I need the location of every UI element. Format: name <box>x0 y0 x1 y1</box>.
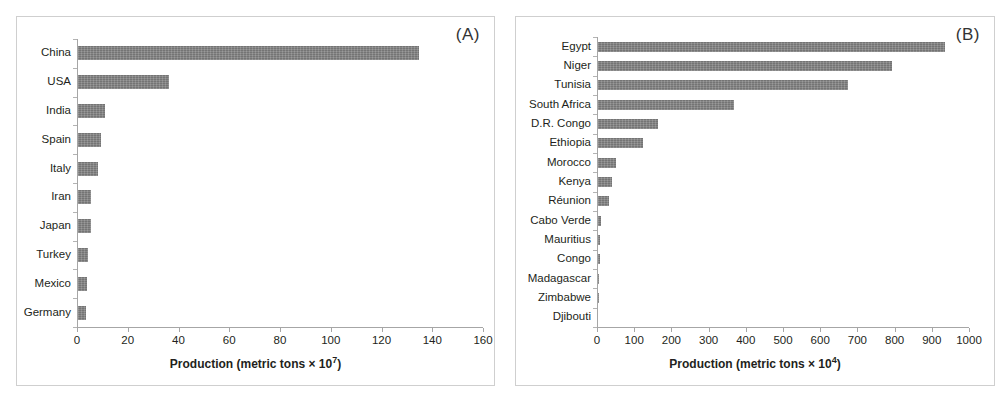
bar <box>78 133 101 147</box>
y-axis-tick <box>593 250 597 251</box>
bar <box>78 306 86 320</box>
bar <box>78 219 91 233</box>
x-axis-tick-label: 1000 <box>956 335 982 347</box>
y-axis-tick <box>593 153 597 154</box>
category-label: Germany <box>17 307 71 319</box>
x-axis-tick <box>820 328 821 332</box>
x-axis-tick <box>280 328 281 332</box>
y-axis-tick <box>73 212 77 213</box>
y-axis-tick <box>593 172 597 173</box>
category-label: Madagascar <box>516 273 591 285</box>
bar <box>78 248 88 262</box>
bar <box>598 138 643 148</box>
x-axis-tick <box>128 328 129 332</box>
x-axis-tick-label: 500 <box>773 335 792 347</box>
y-axis-tick <box>73 269 77 270</box>
bar <box>598 61 892 71</box>
panel-a-axis-title: Production (metric tons × 107) <box>17 357 494 371</box>
y-axis-tick <box>73 39 77 40</box>
y-axis-tick <box>73 97 77 98</box>
category-label: South Africa <box>516 99 591 111</box>
category-label: Djibouti <box>516 312 591 324</box>
x-axis-tick-label: 900 <box>922 335 941 347</box>
y-axis-tick <box>593 76 597 77</box>
x-axis-tick-label: 0 <box>594 335 600 347</box>
category-label: India <box>17 105 71 117</box>
x-axis-tick <box>783 328 784 332</box>
x-axis-tick-label: 160 <box>473 335 492 347</box>
y-axis-tick <box>593 211 597 212</box>
bar <box>598 235 600 245</box>
panel-a-axis-title-text: Production (metric tons × 10 <box>170 357 332 371</box>
category-label: Mauritius <box>516 234 591 246</box>
x-axis-tick <box>857 328 858 332</box>
category-label: Spain <box>17 134 71 146</box>
y-axis-tick <box>593 230 597 231</box>
x-axis-tick <box>382 328 383 332</box>
y-axis-tick <box>593 134 597 135</box>
category-label: Congo <box>516 254 591 266</box>
x-axis-tick-label: 200 <box>662 335 681 347</box>
category-label: Morocco <box>516 157 591 169</box>
bar <box>598 293 599 303</box>
x-axis-tick-label: 120 <box>372 335 391 347</box>
x-axis-tick-label: 80 <box>274 335 287 347</box>
bar <box>78 46 419 60</box>
x-axis-tick <box>432 328 433 332</box>
bar <box>598 42 945 52</box>
y-axis-tick <box>593 308 597 309</box>
y-axis-tick <box>73 68 77 69</box>
panel-a-axis-title-suffix: ) <box>337 357 341 371</box>
x-axis-tick <box>746 328 747 332</box>
category-label: D.R. Congo <box>516 118 591 130</box>
bar <box>598 196 609 206</box>
category-label: Tunisia <box>516 80 591 92</box>
panel-a-plot-area: ChinaUSAIndiaSpainItalyIranJapanTurkeyMe… <box>17 17 494 385</box>
x-axis-tick <box>229 328 230 332</box>
y-axis-tick <box>73 125 77 126</box>
x-axis-tick <box>709 328 710 332</box>
x-axis-tick <box>483 328 484 332</box>
x-axis-tick-label: 20 <box>121 335 134 347</box>
x-axis-tick <box>77 328 78 332</box>
bar <box>598 274 599 284</box>
y-axis-tick <box>73 183 77 184</box>
category-label: USA <box>17 76 71 88</box>
y-axis-tick <box>593 269 597 270</box>
y-axis-tick <box>73 241 77 242</box>
panel-b-axis-title-suffix: ) <box>837 357 841 371</box>
x-axis-tick-label: 40 <box>172 335 185 347</box>
category-label: China <box>17 48 71 60</box>
x-axis-tick <box>895 328 896 332</box>
bar <box>598 100 734 110</box>
category-label: Kenya <box>516 176 591 188</box>
figure-two-panel-bar-charts: (A) ChinaUSAIndiaSpainItalyIranJapanTurk… <box>0 0 1003 405</box>
bar <box>598 177 612 187</box>
panel-b-axis-title: Production (metric tons × 104) <box>516 357 994 371</box>
y-axis-tick <box>593 95 597 96</box>
bar <box>598 119 658 129</box>
panel-a: (A) ChinaUSAIndiaSpainItalyIranJapanTurk… <box>16 16 495 386</box>
y-axis-tick <box>593 37 597 38</box>
category-label: Cabo Verde <box>516 215 591 227</box>
bar <box>78 277 87 291</box>
x-axis-tick-label: 100 <box>625 335 644 347</box>
category-label: Ethiopia <box>516 138 591 150</box>
x-axis-tick-label: 700 <box>848 335 867 347</box>
category-label: Egypt <box>516 41 591 53</box>
x-axis-tick-label: 140 <box>423 335 442 347</box>
x-axis-tick-label: 400 <box>736 335 755 347</box>
category-label: Niger <box>516 60 591 72</box>
bar <box>598 216 601 226</box>
bar <box>78 104 105 118</box>
bar <box>78 162 98 176</box>
category-label: Turkey <box>17 249 71 261</box>
category-label: Zimbabwe <box>516 292 591 304</box>
x-axis-tick-label: 300 <box>699 335 718 347</box>
bar <box>598 158 616 168</box>
category-label: Italy <box>17 163 71 175</box>
x-axis-tick <box>331 328 332 332</box>
x-axis-tick <box>671 328 672 332</box>
y-axis-tick <box>593 288 597 289</box>
bar <box>78 75 169 89</box>
